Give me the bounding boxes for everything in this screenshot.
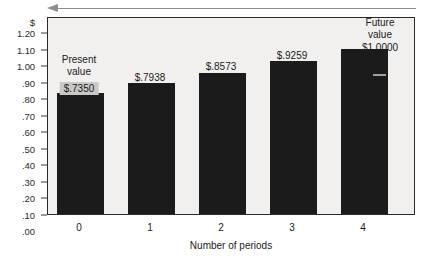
present-value-caption-line1: Present — [62, 54, 96, 66]
y-tick-mark — [41, 115, 47, 116]
present-value-caption-line2: value — [67, 66, 91, 78]
bar-value-label-period-2: $.8573 — [206, 61, 237, 72]
y-tick-mark — [41, 148, 47, 149]
y-tick-mark — [41, 198, 47, 199]
future-value-caption-line1: Future — [366, 17, 395, 29]
plot-area — [47, 17, 415, 215]
direction-arrow-band — [0, 0, 434, 16]
x-tick-label-3: 3 — [289, 222, 295, 233]
y-tick-mark — [41, 214, 47, 215]
y-tick-label: 1.20 — [17, 28, 35, 39]
bar-value-label-period-0: $.7350 — [60, 82, 99, 95]
x-tick-label-4: 4 — [360, 222, 366, 233]
y-tick-mark — [41, 66, 47, 67]
x-axis-title: Number of periods — [190, 240, 272, 251]
bar-period-0 — [57, 93, 104, 214]
y-tick-mark — [41, 132, 47, 133]
bar-value-label-period-3: $.9259 — [277, 50, 308, 61]
y-tick-label: .50 — [22, 143, 35, 154]
x-tick-label-1: 1 — [147, 222, 153, 233]
y-tick-mark — [41, 49, 47, 50]
y-tick-mark — [41, 165, 47, 166]
y-tick-label: .90 — [22, 77, 35, 88]
y-axis-currency-symbol: $ — [30, 17, 35, 28]
y-tick-label: .70 — [22, 110, 35, 121]
chart-figure: $ 1.20 1.10 1.00 .90 .80 .70 .60 .50 .40… — [0, 0, 434, 260]
x-tick-label-0: 0 — [76, 222, 82, 233]
y-tick-label: .60 — [22, 127, 35, 138]
arrow-head-left-icon — [47, 4, 58, 12]
y-tick-mark — [41, 33, 47, 34]
arrow-line — [56, 8, 416, 9]
y-tick-label: .20 — [22, 193, 35, 204]
y-tick-label: .80 — [22, 94, 35, 105]
bar-period-2 — [199, 73, 246, 215]
y-tick-mark — [41, 99, 47, 100]
bar-period-1 — [128, 83, 175, 214]
scan-artifact-mark — [373, 74, 386, 76]
bar-value-label-period-1: $.7938 — [135, 72, 166, 83]
y-tick-mark — [41, 181, 47, 182]
y-tick-label: .40 — [22, 160, 35, 171]
y-tick-label: .30 — [22, 176, 35, 187]
bar-period-3 — [270, 61, 317, 214]
y-tick-mark — [41, 82, 47, 83]
y-tick-label: .00 — [22, 226, 35, 237]
y-tick-label: 1.00 — [17, 61, 35, 72]
y-tick-label: .10 — [22, 209, 35, 220]
y-axis: $ 1.20 1.10 1.00 .90 .80 .70 .60 .50 .40… — [0, 0, 47, 260]
x-tick-label-2: 2 — [218, 222, 224, 233]
y-tick-label: 1.10 — [17, 44, 35, 55]
bar-value-label-period-4: $1.0000 — [362, 42, 398, 53]
future-value-caption-line2: value — [368, 29, 392, 41]
